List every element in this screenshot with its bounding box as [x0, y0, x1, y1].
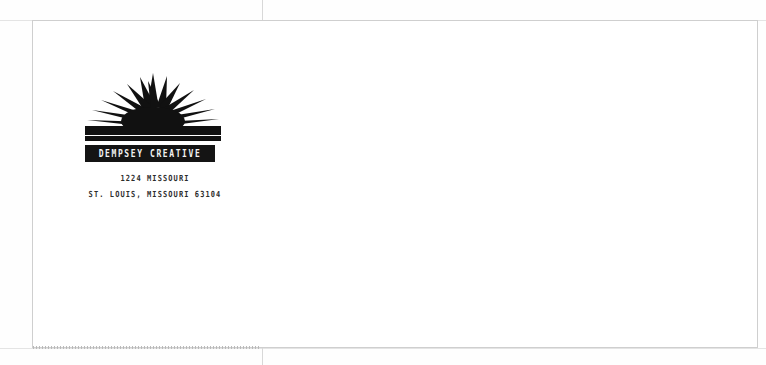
address-block: 1224 MISSOURI ST. LOUIS, MISSOURI 63104 — [85, 176, 225, 199]
logo-wordmark-bar: DEMPSEY CREATIVE — [85, 145, 215, 162]
sunburst-icon — [85, 73, 221, 135]
logo-rule — [85, 136, 221, 141]
logo-block: DEMPSEY CREATIVE — [85, 73, 221, 162]
artboard: DEMPSEY CREATIVE 1224 MISSOURI ST. LOUIS… — [0, 0, 766, 365]
logo-wordmark-text: DEMPSEY CREATIVE — [99, 149, 202, 159]
address-line-city-state-zip: ST. LOUIS, MISSOURI 63104 — [85, 191, 225, 199]
bottom-edge-texture — [33, 346, 261, 349]
envelope-paper: DEMPSEY CREATIVE 1224 MISSOURI ST. LOUIS… — [32, 20, 758, 348]
address-line-street: 1224 MISSOURI — [85, 175, 225, 183]
